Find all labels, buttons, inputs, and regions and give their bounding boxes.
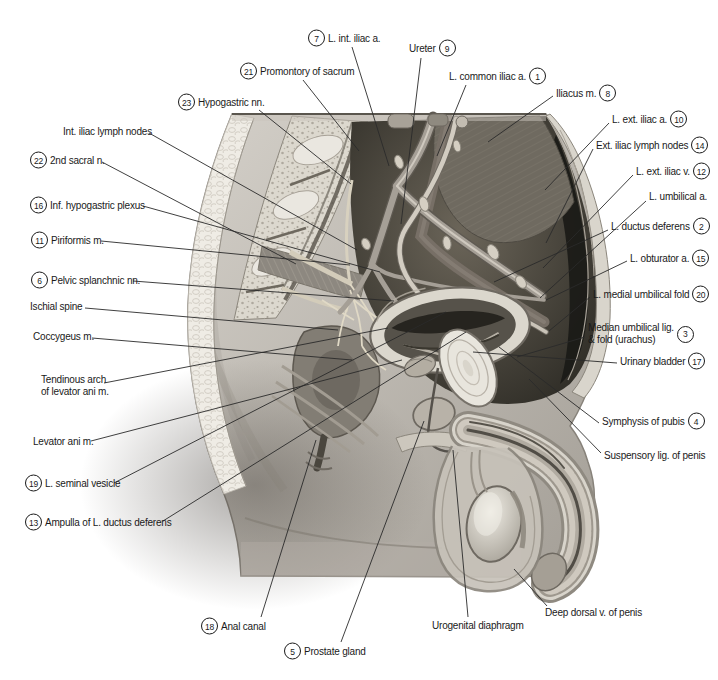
ureter-label: Ureter9 bbox=[409, 40, 456, 57]
labels-layer: 7L. int. iliac a.Ureter921Promontory of … bbox=[0, 0, 718, 680]
label-text: Deep dorsal v. of penis bbox=[545, 607, 642, 619]
label-text: L. common iliac a. bbox=[449, 70, 526, 82]
label-number-badge: 20 bbox=[692, 286, 709, 303]
label-number-badge: 10 bbox=[670, 111, 687, 128]
l-ductus-deferens-label: L. ductus deferens2 bbox=[611, 218, 710, 235]
int-iliac-lymph-nodes-label: Int. iliac lymph nodes bbox=[63, 126, 152, 138]
median-umbilical-lig-label: Median umbilical lig.& fold (urachus)3 bbox=[588, 322, 694, 346]
label-text: L. ductus deferens bbox=[611, 220, 690, 232]
label-number-badge: 19 bbox=[25, 475, 42, 492]
label-text: Pelvic splanchnic nn. bbox=[51, 274, 140, 286]
l-int-iliac-a-label: 7L. int. iliac a. bbox=[308, 30, 380, 47]
label-number-badge: 8 bbox=[599, 85, 616, 102]
ext-iliac-lymph-nodes-label: Ext. iliac lymph nodes14 bbox=[596, 137, 708, 154]
label-text: Urogenital diaphragm bbox=[432, 620, 524, 632]
label-number-badge: 7 bbox=[308, 30, 325, 47]
coccygeus-m-label: Coccygeus m. bbox=[33, 331, 94, 343]
ischial-spine-label: Ischial spine bbox=[30, 301, 82, 313]
label-number-badge: 1 bbox=[529, 68, 546, 85]
label-number-badge: 11 bbox=[31, 232, 48, 249]
l-obturator-a-label: L. obturator a.15 bbox=[630, 250, 709, 267]
label-number-badge: 17 bbox=[688, 353, 705, 370]
l-ext-iliac-v-label: L. ext. iliac v.12 bbox=[636, 163, 710, 180]
label-text-line: & fold (urachus) bbox=[588, 334, 674, 346]
label-number-badge: 23 bbox=[178, 94, 195, 111]
label-text-line: Median umbilical lig. bbox=[588, 322, 674, 334]
tendinous-arch-label: Tendinous archof levator ani m. bbox=[41, 374, 109, 398]
piriformis-m-label: 11Piriformis m. bbox=[31, 232, 104, 249]
levator-ani-m-label: Levator ani m. bbox=[33, 436, 94, 448]
label-text: L. seminal vesicle bbox=[45, 477, 120, 489]
label-number-badge: 14 bbox=[691, 137, 708, 154]
label-number-badge: 4 bbox=[688, 413, 705, 430]
label-number-badge: 15 bbox=[692, 250, 709, 267]
iliacus-m-label: Iliacus m.8 bbox=[556, 85, 616, 102]
label-text: L. int. iliac a. bbox=[328, 32, 380, 44]
label-number-badge: 13 bbox=[25, 514, 42, 531]
label-text: Ischial spine bbox=[30, 301, 82, 313]
anal-canal-label: 18Anal canal bbox=[201, 618, 266, 635]
urogenital-diaphragm-label: Urogenital diaphragm bbox=[432, 620, 524, 632]
label-text: Tendinous archof levator ani m. bbox=[41, 374, 109, 398]
label-text: L. ext. iliac v. bbox=[636, 165, 690, 177]
label-number-badge: 22 bbox=[30, 152, 47, 169]
label-number-badge: 21 bbox=[240, 63, 257, 80]
label-text-line: Tendinous arch bbox=[41, 374, 109, 386]
label-text: Anal canal bbox=[221, 620, 266, 632]
label-text: L. medial umbilical fold bbox=[593, 288, 689, 300]
label-text: Levator ani m. bbox=[33, 436, 94, 448]
label-text: Prostate gland bbox=[304, 645, 366, 657]
label-number-badge: 18 bbox=[201, 618, 218, 635]
label-text: L. ext. iliac a. bbox=[612, 113, 667, 125]
label-text: Suspensory lig. of penis bbox=[604, 450, 705, 462]
label-text: Int. iliac lymph nodes bbox=[63, 126, 152, 138]
label-text: Piriformis m. bbox=[51, 234, 104, 246]
figure-canvas: 7L. int. iliac a.Ureter921Promontory of … bbox=[0, 0, 718, 680]
label-number-badge: 16 bbox=[30, 197, 47, 214]
label-text: L. obturator a. bbox=[630, 252, 689, 264]
l-medial-umbilical-fold-label: L. medial umbilical fold20 bbox=[593, 286, 709, 303]
label-text-line: of levator ani m. bbox=[41, 386, 109, 398]
label-text: Iliacus m. bbox=[556, 87, 596, 99]
ampulla-of-l-ductus-deferens-label: 13Ampulla of L. ductus deferens bbox=[25, 514, 172, 531]
label-text: Hypogastric nn. bbox=[198, 96, 264, 108]
symphysis-of-pubis-label: Symphysis of pubis4 bbox=[602, 413, 705, 430]
hypogastric-nn-label: 23Hypogastric nn. bbox=[178, 94, 264, 111]
label-text: Ureter bbox=[409, 42, 436, 54]
l-ext-iliac-a-label: L. ext. iliac a.10 bbox=[612, 111, 687, 128]
label-number-badge: 9 bbox=[439, 40, 456, 57]
promontory-of-sacrum-label: 21Promontory of sacrum bbox=[240, 63, 354, 80]
l-seminal-vesicle-label: 19L. seminal vesicle bbox=[25, 475, 120, 492]
label-text: Inf. hypogastric plexus bbox=[50, 199, 145, 211]
label-text: Symphysis of pubis bbox=[602, 415, 685, 427]
suspensory-lig-of-penis-label: Suspensory lig. of penis bbox=[604, 450, 705, 462]
label-text: Coccygeus m. bbox=[33, 331, 94, 343]
label-text: 2nd sacral n. bbox=[50, 154, 105, 166]
label-number-badge: 12 bbox=[693, 163, 710, 180]
inf-hypogastric-plexus-label: 16Inf. hypogastric plexus bbox=[30, 197, 145, 214]
label-text: Median umbilical lig.& fold (urachus) bbox=[588, 322, 674, 346]
pelvic-splanchnic-nn-label: 6Pelvic splanchnic nn. bbox=[31, 272, 140, 289]
label-number-badge: 6 bbox=[31, 272, 48, 289]
l-umbilical-a-label: L. umbilical a. bbox=[649, 191, 707, 203]
prostate-gland-label: 5Prostate gland bbox=[284, 643, 366, 660]
l-common-iliac-a-label: L. common iliac a.1 bbox=[449, 68, 546, 85]
label-number-badge: 2 bbox=[693, 218, 710, 235]
label-text: Ampulla of L. ductus deferens bbox=[45, 516, 172, 528]
second-sacral-n-label: 222nd sacral n. bbox=[30, 152, 105, 169]
label-text: L. umbilical a. bbox=[649, 191, 707, 203]
urinary-bladder-label: Urinary bladder17 bbox=[620, 353, 705, 370]
deep-dorsal-v-of-penis-label: Deep dorsal v. of penis bbox=[545, 607, 642, 619]
label-number-badge: 5 bbox=[284, 643, 301, 660]
label-number-badge: 3 bbox=[677, 326, 694, 343]
label-text: Urinary bladder bbox=[620, 355, 685, 367]
label-text: Promontory of sacrum bbox=[260, 65, 354, 77]
label-text: Ext. iliac lymph nodes bbox=[596, 139, 688, 151]
